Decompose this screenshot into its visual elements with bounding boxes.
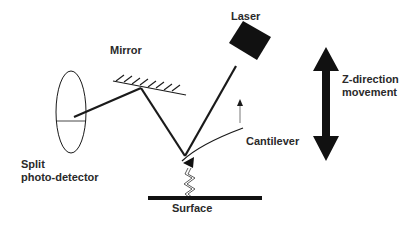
- label-split: Split: [21, 158, 45, 171]
- surface: [148, 196, 262, 200]
- laser-source: [229, 21, 271, 60]
- laser-beam: [74, 66, 236, 156]
- split-photo-detector: [56, 71, 86, 153]
- label-z-direction-2: movement: [342, 86, 397, 99]
- deflection-arrow-icon: [237, 99, 243, 123]
- label-cantilever: Cantilever: [246, 135, 299, 148]
- afm-diagram: [0, 0, 419, 226]
- z-direction-arrow-icon: [313, 47, 339, 161]
- label-mirror: Mirror: [110, 44, 142, 57]
- interaction-spring: [184, 168, 195, 198]
- cantilever: [182, 128, 243, 168]
- mirror: [113, 75, 186, 95]
- label-surface: Surface: [172, 202, 212, 215]
- label-z-direction-1: Z-direction: [342, 73, 399, 86]
- label-photo-detector: photo-detector: [21, 171, 99, 184]
- label-laser: Laser: [231, 10, 260, 23]
